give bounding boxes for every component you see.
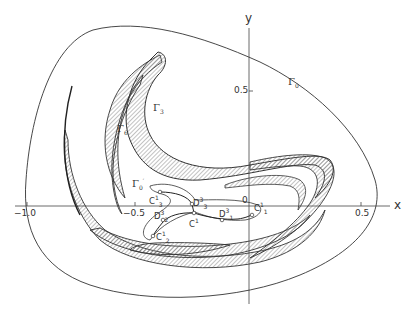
label-c2-1: C12 (156, 231, 170, 244)
label-d1-3: D31 (219, 208, 233, 221)
label-c3-1: C13 (149, 195, 163, 208)
diagram-svg (0, 0, 420, 314)
main-crescent-band (126, 52, 333, 198)
label-d2-3: D32 (154, 210, 168, 223)
gamma6p-label: Γ6′ (117, 123, 129, 136)
label-c1-1: C11 (254, 202, 268, 215)
y-tick-label-0.5: 0.5 (234, 86, 248, 95)
x-tick-label--0.5: −0.5 (123, 209, 145, 218)
x-tick-label-0.5: 0.5 (355, 209, 369, 218)
label-d3-3: D33 (193, 197, 207, 210)
gamma3-label: Γ3 (153, 103, 164, 115)
label-c1: C1 (189, 218, 199, 228)
x-tick-label--1.0: −1.0 (14, 209, 36, 218)
origin-label: 0 (242, 196, 248, 205)
y-axis-label: y (245, 12, 252, 24)
trajectory-c3-d3 (160, 192, 192, 204)
phase-portrait-figure: x y −1.0 −0.5 0 0.5 0.5 Γ0 Γ3 Γ6′ Γ0′ C1… (0, 0, 420, 314)
gamma0p-label: Γ0′ (132, 178, 144, 191)
point-c2-1 (151, 234, 155, 238)
point-c1 (192, 211, 196, 215)
x-axis-label: x (394, 199, 401, 211)
gamma0-label: Γ0 (288, 77, 299, 89)
